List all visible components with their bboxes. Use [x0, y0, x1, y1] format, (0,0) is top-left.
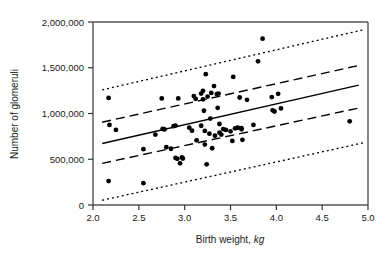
- y-axis-ticks: [88, 22, 93, 205]
- data-point: [347, 119, 352, 124]
- data-point: [205, 94, 210, 99]
- data-point: [175, 156, 180, 161]
- data-point: [180, 156, 185, 161]
- x-tick-label: 4.0: [270, 212, 283, 223]
- data-point: [239, 127, 244, 132]
- data-point: [173, 123, 178, 128]
- data-point: [201, 97, 206, 102]
- data-point: [210, 146, 215, 151]
- data-point: [162, 127, 167, 132]
- data-point: [176, 96, 181, 101]
- data-point: [207, 131, 212, 136]
- data-point: [216, 91, 221, 96]
- data-point: [159, 96, 164, 101]
- y-tick-label: 500,000: [50, 154, 84, 165]
- x-tick-label: 3.5: [224, 212, 237, 223]
- y-tick-label: 1,000,000: [42, 108, 84, 119]
- data-point: [276, 91, 281, 96]
- data-point: [208, 116, 213, 121]
- data-point: [114, 128, 119, 133]
- data-point: [106, 179, 111, 184]
- x-axis-title-unit: kg: [254, 234, 265, 245]
- x-axis-title-text: Birth weight,: [196, 234, 254, 245]
- data-point: [240, 137, 245, 142]
- data-point: [202, 142, 207, 147]
- data-point: [230, 139, 235, 144]
- x-tick-label: 2.0: [86, 212, 99, 223]
- data-point: [260, 36, 265, 41]
- data-point: [178, 161, 183, 166]
- upper-prediction-band: [102, 30, 363, 90]
- data-point: [203, 72, 208, 77]
- lower-prediction-band: [102, 143, 363, 200]
- data-point: [209, 91, 214, 96]
- data-points-group: [106, 36, 352, 185]
- data-point: [190, 128, 195, 133]
- data-point: [224, 128, 229, 133]
- data-point: [201, 88, 206, 93]
- data-point: [204, 162, 209, 167]
- data-point: [107, 123, 112, 128]
- data-point: [256, 59, 261, 64]
- data-point: [202, 108, 207, 113]
- data-point: [245, 97, 250, 102]
- data-point: [215, 105, 220, 110]
- scatter-plot-svg: 2.02.53.03.54.04.55.0 0500,0001,000,0001…: [0, 0, 385, 254]
- data-point: [272, 109, 277, 114]
- data-point: [212, 84, 217, 89]
- x-axis-tick-labels: 2.02.53.03.54.04.55.0: [86, 212, 374, 223]
- fit-lines-group: [102, 30, 363, 200]
- data-point: [153, 132, 158, 137]
- x-tick-label: 4.5: [316, 212, 329, 223]
- data-point: [193, 96, 198, 101]
- data-point: [217, 122, 222, 127]
- chart-figure: 2.02.53.03.54.04.55.0 0500,0001,000,0001…: [0, 0, 385, 254]
- y-tick-label: 0: [79, 200, 84, 211]
- data-point: [194, 138, 199, 143]
- data-point: [202, 128, 207, 133]
- data-point: [237, 95, 242, 100]
- y-axis-title: Number of glomeruli: [9, 69, 20, 159]
- data-point: [169, 146, 174, 151]
- x-axis-ticks: [93, 205, 368, 210]
- data-point: [279, 106, 284, 111]
- x-tick-label: 3.0: [178, 212, 191, 223]
- data-point: [251, 123, 256, 128]
- y-tick-label: 1,500,000: [42, 62, 84, 73]
- data-point: [213, 133, 218, 138]
- data-point: [228, 129, 233, 134]
- data-point: [141, 147, 146, 152]
- y-axis-tick-labels: 0500,0001,000,0001,500,0002,000,000: [42, 17, 84, 211]
- y-tick-label: 2,000,000: [42, 17, 84, 28]
- data-point: [231, 75, 236, 80]
- lower-confidence-band: [102, 108, 359, 163]
- x-tick-label: 2.5: [132, 212, 145, 223]
- plot-frame: [93, 22, 368, 205]
- data-point: [141, 181, 146, 186]
- x-tick-label: 5.0: [361, 212, 374, 223]
- data-point: [106, 96, 111, 101]
- data-point: [269, 95, 274, 100]
- x-axis-title: Birth weight, kg: [196, 234, 265, 245]
- data-point: [219, 132, 224, 137]
- data-point: [199, 123, 204, 128]
- data-point: [164, 145, 169, 150]
